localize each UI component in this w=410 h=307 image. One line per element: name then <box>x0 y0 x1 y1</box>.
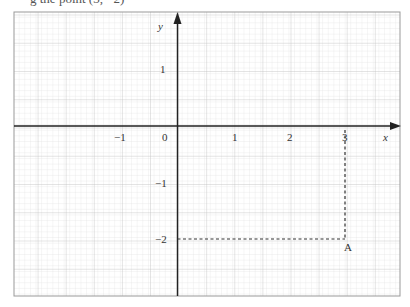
y-tick-neg1: −1 <box>155 177 167 189</box>
x-axis-label: x <box>382 131 388 143</box>
y-tick-neg2: −2 <box>155 233 167 245</box>
major-grid <box>14 12 400 296</box>
x-tick-0: 0 <box>162 131 168 143</box>
coordinate-grid: y x −1 0 1 2 3 1 −1 −2 A <box>0 0 410 307</box>
x-tick-2: 2 <box>287 131 293 143</box>
y-tick-1: 1 <box>160 63 166 75</box>
x-tick-neg1: −1 <box>114 131 126 143</box>
x-tick-3: 3 <box>342 131 348 143</box>
x-tick-1: 1 <box>232 131 238 143</box>
y-axis-label: y <box>157 20 163 32</box>
point-a-label: A <box>344 241 352 253</box>
